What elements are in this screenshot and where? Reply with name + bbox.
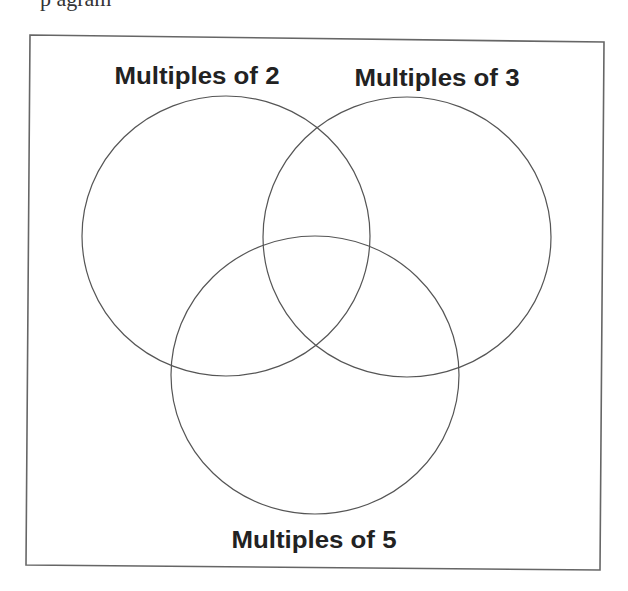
diagram-frame [26,35,604,570]
label-multiples-of-3: Multiples of 3 [355,65,520,91]
label-multiples-of-2: Multiples of 2 [115,63,280,89]
venn-diagram: Multiples of 2 Multiples of 3 Multiples … [0,0,628,591]
label-multiples-of-5: Multiples of 5 [232,527,397,553]
